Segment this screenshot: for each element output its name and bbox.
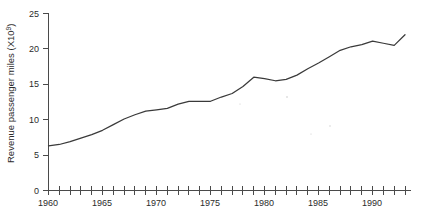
x-axis-tick-labels: 1960 1965 1970 1975 1980 1985 1990: [38, 198, 382, 208]
chart-figure: Revenue passenger miles (X109) 0 5 10 15…: [0, 0, 421, 220]
svg-text:Revenue passenger miles (X109): Revenue passenger miles (X109): [5, 24, 16, 163]
x-tick-label: 1980: [254, 198, 274, 208]
y-axis-label-close: ): [5, 24, 16, 27]
line-chart-plot: Revenue passenger miles (X109) 0 5 10 15…: [0, 0, 421, 220]
x-tick-label: 1975: [200, 198, 220, 208]
x-tick-label: 1985: [308, 198, 328, 208]
y-tick-label: 5: [34, 150, 39, 160]
x-tick-label: 1965: [92, 198, 112, 208]
x-tick-label: 1960: [38, 198, 58, 208]
y-axis-label: Revenue passenger miles (X109): [5, 24, 16, 163]
x-tick-label: 1990: [362, 198, 382, 208]
y-axis-label-base: Revenue passenger miles (X10: [5, 30, 16, 163]
data-series-line: [49, 35, 406, 146]
x-tick-label: 1970: [146, 198, 166, 208]
y-tick-label: 0: [34, 186, 39, 196]
scan-artifacts: [239, 96, 330, 134]
y-axis-tick-labels: 0 5 10 15 20 25: [29, 9, 39, 196]
y-tick-label: 25: [29, 9, 39, 19]
y-tick-label: 10: [29, 115, 39, 125]
y-tick-label: 15: [29, 79, 39, 89]
y-axis-ticks: [43, 14, 49, 191]
y-tick-label: 20: [29, 44, 39, 54]
